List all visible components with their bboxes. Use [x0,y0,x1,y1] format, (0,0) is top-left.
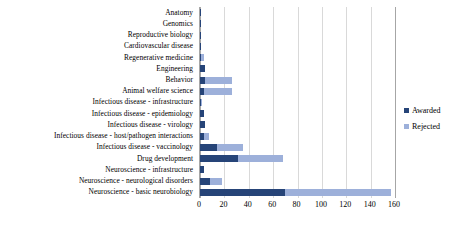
value-axis-tick-label: 40 [244,200,252,210]
category-label: Neuroscience - neurological disorders [79,177,193,185]
category-axis-tick: Regenerative medicine [0,52,197,63]
legend-label: Rejected [412,122,440,131]
bar-segment-awarded[interactable] [200,20,201,27]
category-axis-tick: Infectious disease - epidemiology [0,108,197,119]
category-label: Behavior [166,76,194,84]
category-axis-tick: Infectious disease - vaccinology [0,142,197,153]
legend-item-awarded[interactable]: Awarded [404,106,441,115]
plot-area [199,7,394,198]
category-axis-tick: Behavior [0,74,197,85]
bar-segment-rejected[interactable] [205,77,232,84]
gridline [395,7,396,198]
bar-row[interactable] [200,18,394,29]
category-axis-tick: Drug development [0,153,197,164]
category-axis-tick: Infectious disease - infrastructure [0,97,197,108]
category-label: Drug development [137,155,193,163]
category-label: Anatomy [165,9,193,17]
bar-segment-awarded[interactable] [200,32,201,39]
bar-segment-rejected[interactable] [285,189,391,196]
bar-row[interactable] [200,52,394,63]
value-axis-tick-label: 60 [268,200,276,210]
bar-segment-awarded[interactable] [200,178,210,185]
stacked-bar[interactable] [200,9,201,16]
category-axis-tick: Reproductive biology [0,29,197,40]
category-axis-tick: Cardiovascular disease [0,41,197,52]
bar-segment-rejected[interactable] [210,178,222,185]
bar-segment-rejected[interactable] [238,155,283,162]
bar-segment-awarded[interactable] [200,121,205,128]
bar-row[interactable] [200,97,394,108]
category-label: Animal welfare science [122,87,193,95]
bar-row[interactable] [200,7,394,18]
category-label: Infectious disease - virology [108,121,193,129]
bar-segment-awarded[interactable] [200,166,204,173]
stacked-bar[interactable] [200,32,201,39]
bar-row[interactable] [200,63,394,74]
value-axis-tick-label: 80 [293,200,301,210]
stacked-bar[interactable] [200,189,391,196]
bar-segment-rejected[interactable] [217,144,243,151]
bar-segment-rejected[interactable] [201,54,203,61]
bar-row[interactable] [200,187,394,198]
bar-row[interactable] [200,131,394,142]
bar-row[interactable] [200,29,394,40]
category-axis-tick: Neuroscience - neurological disorders [0,176,197,187]
category-label: Reproductive biology [128,31,193,39]
value-axis-tick-label: 140 [364,200,376,210]
category-label: Neuroscience - basic neurobiology [89,188,193,196]
bar-segment-awarded[interactable] [200,155,238,162]
category-axis-tick: Genomics [0,18,197,29]
chart-legend: AwardedRejected [404,106,441,131]
category-label: Engineering [156,65,193,73]
stacked-bar[interactable] [200,110,204,117]
stacked-bar[interactable] [200,178,222,185]
category-axis-tick: Neuroscience - basic neurobiology [0,187,197,198]
category-label: Neuroscience - infrastructure [105,166,193,174]
bar-row[interactable] [200,108,394,119]
category-label: Cardiovascular disease [124,42,193,50]
stacked-bar[interactable] [200,88,232,95]
stacked-bar[interactable] [200,121,205,128]
stacked-bar[interactable] [200,54,204,61]
legend-label: Awarded [412,106,441,115]
stacked-bar[interactable] [200,166,204,173]
bar-segment-awarded[interactable] [200,65,205,72]
bar-row[interactable] [200,119,394,130]
stacked-bar[interactable] [200,155,283,162]
bar-row[interactable] [200,164,394,175]
category-axis-tick: Neuroscience - infrastructure [0,164,197,175]
bar-row[interactable] [200,41,394,52]
bar-segment-rejected[interactable] [204,133,209,140]
stacked-bar[interactable] [200,77,232,84]
stacked-bar[interactable] [200,133,209,140]
category-axis-tick: Infectious disease - virology [0,119,197,130]
legend-item-rejected[interactable]: Rejected [404,122,441,131]
bar-segment-awarded[interactable] [200,189,285,196]
bar-segment-awarded[interactable] [200,110,204,117]
bar-row[interactable] [200,153,394,164]
bar-segment-awarded[interactable] [200,9,201,16]
bar-segment-rejected[interactable] [204,88,232,95]
stacked-bar[interactable] [200,20,201,27]
bar-row[interactable] [200,86,394,97]
bar-segment-rejected[interactable] [201,99,202,106]
value-axis-tick-label: 160 [388,200,400,210]
stacked-bar-chart: AnatomyGenomicsReproductive biologyCardi… [0,0,459,231]
value-axis-tick-label: 0 [197,200,201,210]
bar-row[interactable] [200,74,394,85]
bar-segment-awarded[interactable] [200,43,201,50]
value-axis-tick-label: 120 [339,200,351,210]
stacked-bar[interactable] [200,65,205,72]
stacked-bar[interactable] [200,99,202,106]
category-label: Regenerative medicine [124,54,193,62]
bar-row[interactable] [200,176,394,187]
category-axis-tick: Infectious disease - host/pathogen inter… [0,131,197,142]
bar-row[interactable] [200,142,394,153]
bar-segment-awarded[interactable] [200,144,217,151]
value-axis: 020406080100120140160 [199,199,394,213]
legend-swatch-icon [404,108,409,113]
stacked-bar[interactable] [200,43,201,50]
bar-series-container [200,7,394,198]
legend-swatch-icon [404,124,409,129]
stacked-bar[interactable] [200,144,243,151]
